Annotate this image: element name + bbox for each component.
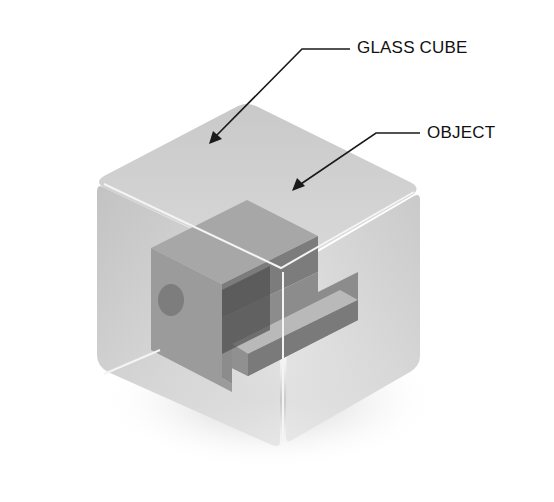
glass-cube-label: GLASS CUBE: [357, 38, 468, 58]
object-label: OBJECT: [427, 123, 495, 143]
hole: [158, 284, 184, 316]
glass-cube-diagram: [0, 0, 554, 502]
